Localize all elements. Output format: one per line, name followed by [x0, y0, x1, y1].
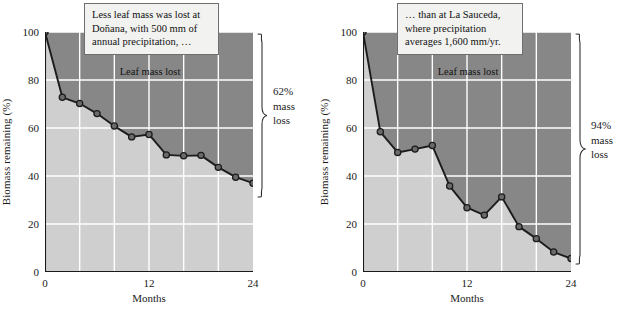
mass-loss-pct: 62% [273, 84, 295, 99]
y-tick-label: 40 [346, 171, 357, 182]
y-tick-label: 100 [23, 27, 40, 38]
x-tick-label: 0 [360, 278, 366, 289]
panel-la-sauceda: Biomass remaining (%) 02040608010001224 … [315, 0, 631, 314]
x-axis-title-donana: Months [132, 292, 166, 304]
panel-donana: Biomass remaining (%) 02040608010001224 … [0, 0, 315, 314]
y-tick-label: 0 [34, 267, 40, 278]
mass-loss-word-2: loss [591, 147, 613, 162]
callout-line-2: Doñana, with 500 mm of [92, 22, 212, 36]
callout-line-2: where precipitation [405, 22, 516, 36]
mass-loss-word-2: loss [273, 113, 295, 128]
y-axis-title-la-sauceda: Biomass remaining (%) [318, 99, 330, 206]
mass-loss-pct: 94% [591, 118, 613, 133]
mass-loss-word-1: mass [591, 133, 613, 148]
y-tick-label: 20 [346, 219, 357, 230]
leaf-mass-lost-note-donana: Leaf mass lost [120, 66, 181, 77]
mass-loss-brace-la-sauceda: 94% mass loss [574, 33, 587, 265]
x-tick-label: 12 [462, 278, 473, 289]
callout-line-1: Less leaf mass was lost at [92, 8, 212, 22]
y-tick-label: 60 [346, 123, 357, 134]
y-tick-label: 80 [28, 75, 39, 86]
callout-line-3: averages 1,600 mm/yr. [405, 35, 516, 49]
x-tick-label: 24 [248, 278, 259, 289]
figure-leaf-decomposition: Biomass remaining (%) 02040608010001224 … [0, 0, 631, 314]
callout-line-3: annual precipitation, … [92, 35, 212, 49]
x-tick-label: 0 [42, 278, 48, 289]
mass-loss-word-1: mass [273, 99, 295, 114]
y-tick-label: 60 [28, 123, 39, 134]
y-tick-label: 0 [352, 267, 358, 278]
x-axis-title-la-sauceda: Months [450, 292, 484, 304]
x-tick-label: 24 [566, 278, 577, 289]
leaf-mass-lost-note-la-sauceda: Leaf mass lost [438, 66, 499, 77]
y-axis-title-donana: Biomass remaining (%) [0, 99, 12, 206]
y-tick-label: 100 [341, 27, 358, 38]
callout-line-1: … than at La Sauceda, [405, 8, 516, 22]
brace-icon [256, 33, 269, 198]
y-tick-label: 80 [346, 75, 357, 86]
y-tick-label: 20 [28, 219, 39, 230]
callout-donana: Less leaf mass was lost at Doñana, with … [84, 3, 219, 55]
y-tick-label: 40 [28, 171, 39, 182]
mass-loss-label-la-sauceda: 94% mass loss [591, 118, 613, 162]
x-tick-label: 12 [144, 278, 155, 289]
callout-la-sauceda: … than at La Sauceda, where precipitatio… [397, 3, 523, 55]
mass-loss-label-donana: 62% mass loss [273, 84, 295, 128]
mass-loss-brace-donana: 62% mass loss [256, 33, 269, 198]
brace-icon [574, 33, 587, 265]
